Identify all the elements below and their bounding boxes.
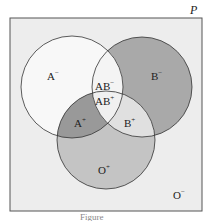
region-a-pos: A+ (74, 117, 86, 129)
region-a-neg: A− (47, 70, 59, 82)
figure-caption: Figure (80, 212, 104, 221)
region-b-neg: B− (151, 70, 162, 82)
region-o-pos: O+ (98, 164, 110, 176)
universe-label: P (190, 3, 197, 18)
region-o-neg: O− (173, 189, 185, 201)
region-ab-neg: AB− (95, 80, 114, 92)
region-b-pos: B+ (124, 117, 135, 129)
region-ab-pos: AB+ (95, 95, 114, 107)
